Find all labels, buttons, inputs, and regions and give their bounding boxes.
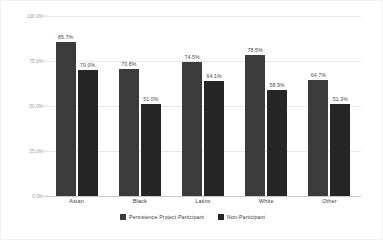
x-tick-label-white: White [235, 198, 298, 204]
legend-swatch-icon [120, 214, 126, 220]
bar-white-participant[interactable]: 78.5% [245, 55, 265, 196]
bar-asian-participant[interactable]: 85.7% [56, 42, 76, 196]
x-tick-label-latinx: Latinx [171, 198, 234, 204]
bar-rect [182, 62, 202, 196]
bar-rect [330, 104, 350, 196]
legend-label: Persistence Project Participant [129, 214, 204, 220]
bar-value-label: 51.3% [333, 96, 348, 102]
bar-rect [267, 90, 287, 196]
x-tick-label-black: Black [108, 198, 171, 204]
bar-white-nonparticipant[interactable]: 58.9% [267, 90, 287, 196]
bar-black-nonparticipant[interactable]: 51.0% [141, 104, 161, 196]
legend-item-participant[interactable]: Persistence Project Participant [120, 214, 204, 220]
bar-rect [204, 81, 224, 196]
y-axis: 100.0% 75.0% 50.0% 25.0% 0.0% [1, 16, 43, 196]
bar-rect [245, 55, 265, 196]
bar-value-label: 74.5% [184, 54, 199, 60]
bar-rect [308, 80, 328, 196]
bar-value-label: 78.5% [248, 47, 263, 53]
bar-rect [119, 69, 139, 196]
bar-other-nonparticipant[interactable]: 51.3% [330, 104, 350, 196]
y-tick-label: 100.0% [3, 14, 43, 19]
bar-value-label: 51.0% [143, 96, 158, 102]
y-tick-label: 75.0% [3, 59, 43, 64]
chart-legend: Persistence Project Participant Non-Part… [1, 214, 383, 220]
bar-value-label: 70.0% [80, 62, 95, 68]
bar-rect [56, 42, 76, 196]
legend-item-nonparticipant[interactable]: Non-Participant [218, 214, 265, 220]
x-tick-label-other: Other [298, 198, 361, 204]
bar-group-other: 64.7% 51.3% [298, 16, 361, 196]
x-axis: Asian Black Latinx White Other [45, 198, 361, 204]
bar-chart: 100.0% 75.0% 50.0% 25.0% 0.0% 85.7% 70.0… [0, 0, 383, 240]
bar-value-label: 58.9% [270, 82, 285, 88]
bar-group-black: 70.8% 51.0% [108, 16, 171, 196]
bar-other-participant[interactable]: 64.7% [308, 80, 328, 196]
axis-baseline [45, 196, 361, 197]
bar-latinx-nonparticipant[interactable]: 64.1% [204, 81, 224, 196]
bar-black-participant[interactable]: 70.8% [119, 69, 139, 196]
bar-rect [141, 104, 161, 196]
x-tick-label-asian: Asian [45, 198, 108, 204]
bar-latinx-participant[interactable]: 74.5% [182, 62, 202, 196]
bar-groups: 85.7% 70.0% 70.8% 51.0% [45, 16, 361, 196]
bar-value-label: 70.8% [121, 61, 136, 67]
y-tick-label: 25.0% [3, 149, 43, 154]
bar-asian-nonparticipant[interactable]: 70.0% [78, 70, 98, 196]
y-tick-label: 50.0% [3, 104, 43, 109]
bar-group-latinx: 74.5% 64.1% [171, 16, 234, 196]
bar-group-asian: 85.7% 70.0% [45, 16, 108, 196]
bar-value-label: 64.7% [311, 72, 326, 78]
bar-rect [78, 70, 98, 196]
bar-group-white: 78.5% 58.9% [235, 16, 298, 196]
bar-value-label: 64.1% [206, 73, 221, 79]
plot-area: 85.7% 70.0% 70.8% 51.0% [45, 16, 361, 196]
bar-value-label: 85.7% [58, 34, 73, 40]
legend-label: Non-Participant [227, 214, 265, 220]
y-tick-label: 0.0% [3, 194, 43, 199]
legend-swatch-icon [218, 214, 224, 220]
